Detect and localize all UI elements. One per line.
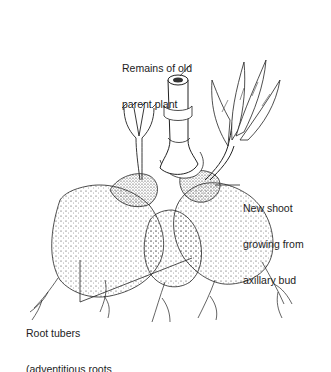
label-root-tubers-line1: Root tubers [26,327,115,339]
label-remains-line2: parent plant [122,98,192,110]
label-new-shoot-line3: axillary bud [243,274,304,286]
label-remains-of-old-parent-plant: Remains of old parent plant [122,38,192,122]
label-new-shoot: New shoot growing from axillary bud [243,178,304,298]
label-remains-line1: Remains of old [122,62,192,74]
label-root-tubers: Root tubers (adventitious roots swollen … [26,303,115,372]
label-new-shoot-line1: New shoot [243,202,304,214]
label-root-tubers-line2: (adventitious roots [26,363,115,372]
new-shoot [205,60,280,180]
label-new-shoot-line2: growing from [243,238,304,250]
